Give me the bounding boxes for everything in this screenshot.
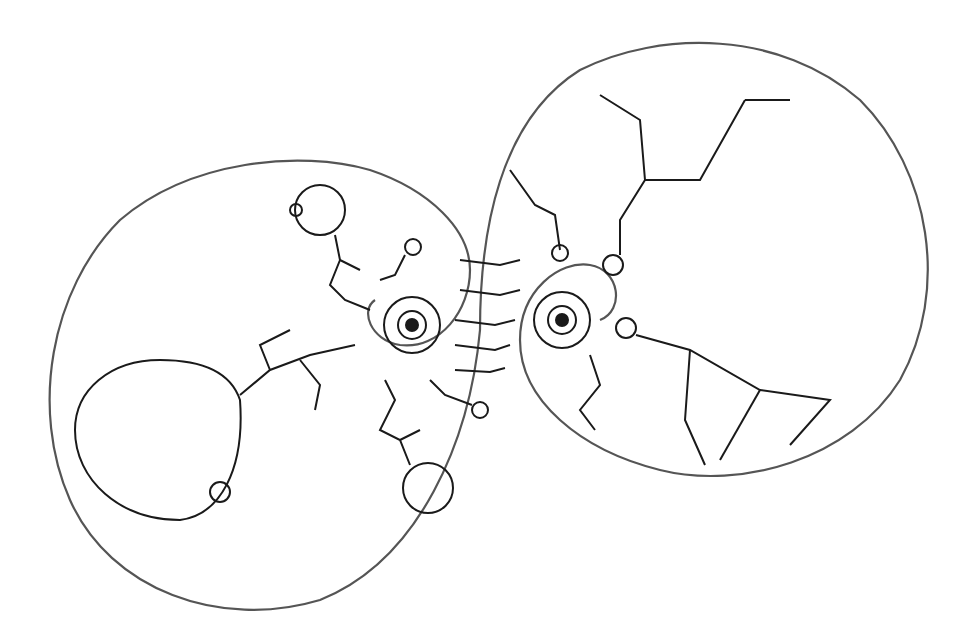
- fractal-figure: [0, 0, 957, 638]
- outer-outline: [50, 43, 928, 610]
- figure-svg: [0, 0, 957, 638]
- branches: [75, 95, 830, 520]
